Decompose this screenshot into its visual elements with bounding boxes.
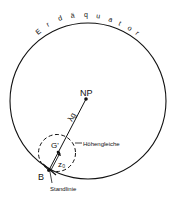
svg-text:t: t [118,20,123,27]
earth-equator-circle [10,23,166,179]
svg-text:ä: ä [70,12,75,19]
observer-label: B [38,172,44,182]
svg-text:o: o [126,24,133,32]
distance-label: λg [66,111,78,123]
line-of-position-leader [50,172,52,183]
altitude-circle-label: Höhengleiche [83,141,120,147]
svg-text:u: u [96,12,101,19]
svg-text:r: r [134,30,141,37]
zenith-distance-label: z₀ [58,160,65,169]
svg-text:q: q [84,11,88,19]
line-of-position-label: Standlinie [50,186,77,192]
north-pole-label: NP [80,88,93,98]
line-of-position [43,164,56,175]
geo-point-label: G' [51,141,59,150]
celestial-navigation-diagram: E r d ä q u a t o r NP λg G' z₀ Höhengle… [0,0,173,199]
svg-text:a: a [108,15,114,23]
svg-text:r: r [45,20,51,28]
svg-text:E: E [34,27,42,36]
pole-to-observer-line [49,99,86,170]
svg-text:d: d [57,14,63,22]
